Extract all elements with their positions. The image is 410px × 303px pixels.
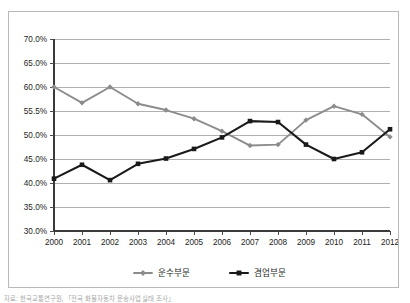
- y-axis-tick-label: 50.0%: [24, 131, 47, 140]
- y-axis-tick-labels: 70.0%65.0%60.0%55.5%50.0%45.0%40.0%35.0%…: [24, 35, 47, 236]
- chart-plot-frame: 70.0%65.0%60.0%55.5%50.0%45.0%40.0%35.0%…: [8, 11, 399, 288]
- data-point-marker: [163, 107, 168, 112]
- data-point-marker: [164, 156, 169, 161]
- chart-figure: 70.0%65.0%60.0%55.5%50.0%45.0%40.0%35.0%…: [0, 0, 410, 303]
- y-axis-tick-label: 60.0%: [24, 83, 47, 92]
- x-axis-tick-label: 2011: [353, 238, 371, 247]
- data-point-marker: [248, 119, 253, 124]
- data-point-marker: [191, 116, 196, 121]
- data-point-marker: [136, 162, 141, 167]
- y-axis-tick-label: 45.0%: [24, 155, 47, 164]
- x-axis-tick-label: 2010: [325, 238, 344, 247]
- x-axis-tick-label: 2001: [73, 238, 92, 247]
- x-axis-tick-label: 2002: [101, 238, 120, 247]
- x-axis-tick-label: 2007: [241, 238, 260, 247]
- y-axis-tick-label: 35.0%: [24, 203, 47, 212]
- data-point-marker: [52, 176, 57, 181]
- data-point-marker: [276, 120, 281, 125]
- legend-label-0: 운수부문: [158, 268, 190, 278]
- x-axis-tick-label: 2005: [185, 238, 204, 247]
- y-axis-tick-label: 65.0%: [24, 59, 47, 68]
- data-series: [51, 84, 392, 182]
- x-axis-tick-labels: 2000200120022003200420052006200720082009…: [45, 238, 398, 247]
- data-point-marker: [332, 157, 337, 162]
- gridlines: [54, 39, 390, 231]
- chart-legend: 운수부문겸업부문: [134, 267, 286, 278]
- x-axis-tick-label: 2000: [45, 238, 64, 247]
- data-point-marker: [192, 147, 197, 152]
- x-axis-tick-label: 2012: [381, 238, 398, 247]
- footnote: 자료: 한국교통연구원, 「전국 화물자동차 운송사업 실태 조사」: [4, 295, 234, 303]
- x-axis-tick-label: 2004: [157, 238, 176, 247]
- line-chart: 70.0%65.0%60.0%55.5%50.0%45.0%40.0%35.0%…: [9, 12, 398, 287]
- footnote-text: 자료: 한국교통연구원, 「전국 화물자동차 운송사업 실태 조사」: [4, 295, 234, 303]
- data-point-marker: [360, 150, 365, 155]
- data-point-marker: [388, 127, 393, 132]
- legend-swatch-marker: [140, 270, 146, 276]
- x-axis-tick-label: 2008: [269, 238, 288, 247]
- data-point-marker: [108, 178, 113, 183]
- x-axis-tick-label: 2003: [129, 238, 148, 247]
- y-axis-tick-label: 30.0%: [24, 227, 47, 236]
- y-axis-tick-label: 70.0%: [24, 35, 47, 44]
- y-axis-tick-label: 40.0%: [24, 179, 47, 188]
- legend-swatch-marker: [237, 271, 242, 276]
- legend-label-1: 겸업부문: [254, 267, 286, 278]
- x-axis-tick-label: 2009: [297, 238, 316, 247]
- data-point-marker: [220, 135, 225, 140]
- data-point-marker: [304, 142, 309, 147]
- x-axis-tick-label: 2006: [213, 238, 232, 247]
- y-axis-tick-label: 55.5%: [24, 107, 47, 116]
- data-point-marker: [80, 162, 85, 167]
